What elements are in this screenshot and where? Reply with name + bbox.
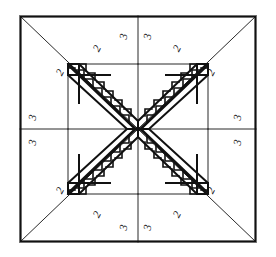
quilt-block-canvas: 2 2 3 3 2 2 3 3 3 3 2 2 3 3 2 2	[0, 0, 276, 257]
ink-layer	[20, 16, 256, 242]
quilt-block-diagram: 2 2 3 3 2 2 3 3 3 3 2 2 3 3 2 2	[0, 0, 276, 257]
